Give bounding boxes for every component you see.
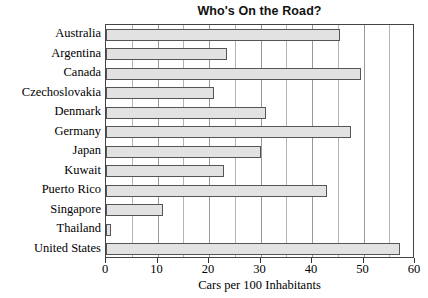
x-axis-tick-labels: 0102030405060 [105,262,414,278]
x-axis-tick-label: 40 [305,262,318,277]
bar-row [106,87,413,99]
x-axis-tick-label: 50 [356,262,369,277]
x-axis-tick-label: 60 [408,262,421,277]
bar [106,29,340,41]
category-label: Argentina [0,47,101,60]
bar-row [106,48,413,60]
bar-row [106,224,413,236]
bar-row [106,165,413,177]
category-label: Thailand [0,222,101,235]
x-axis-title: Cars per 100 Inhabitants [105,278,414,293]
bar-row [106,243,413,255]
bar-row [106,204,413,216]
category-label: Australia [0,27,101,40]
bar-row [106,107,413,119]
category-label: Germany [0,125,101,138]
bar-chart: Who's On the Road? AustraliaArgentinaCan… [0,0,428,298]
category-label: Kuwait [0,164,101,177]
chart-title: Who's On the Road? [105,4,414,18]
plot-area [105,24,414,258]
category-label: Denmark [0,105,101,118]
bar-row [106,185,413,197]
bar-row [106,126,413,138]
x-axis-tick-label: 0 [102,262,108,277]
bar [106,68,361,80]
bar [106,204,163,216]
category-label: Japan [0,144,101,157]
category-label: Canada [0,66,101,79]
bar [106,126,351,138]
bar [106,87,214,99]
bars-layer [106,25,413,257]
bar [106,107,266,119]
bar-row [106,146,413,158]
category-label: Puerto Rico [0,183,101,196]
bar [106,146,261,158]
x-axis-tick-label: 10 [150,262,163,277]
x-axis-tick-label: 30 [253,262,266,277]
bar [106,48,227,60]
bar [106,243,400,255]
category-label: Singapore [0,203,101,216]
bar-row [106,68,413,80]
bar-row [106,29,413,41]
category-axis-labels: AustraliaArgentinaCanadaCzechoslovakiaDe… [0,24,101,258]
category-label: Czechoslovakia [0,86,101,99]
bar [106,185,327,197]
category-label: United States [0,242,101,255]
bar [106,165,224,177]
bar [106,224,111,236]
x-axis-tick-label: 20 [202,262,215,277]
